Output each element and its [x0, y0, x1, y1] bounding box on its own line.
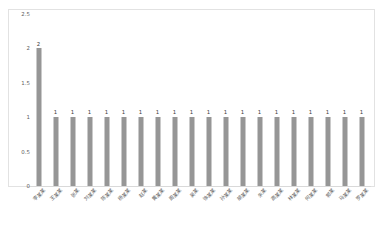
bar[interactable] — [70, 117, 75, 186]
bar[interactable] — [172, 117, 177, 186]
bar-value-label: 1 — [54, 110, 57, 115]
x-axis-tick-label: 孙某某 — [219, 188, 233, 202]
bar-chart: 2.521.510.50 21111111111111111111 李某某王某某… — [0, 0, 387, 237]
bar-value-label: 1 — [275, 110, 278, 115]
bar[interactable] — [138, 117, 143, 186]
bar-value-label: 1 — [71, 110, 74, 115]
bar[interactable] — [206, 117, 211, 186]
bar[interactable] — [87, 117, 92, 186]
x-axis-tick-label: 杨某某 — [117, 188, 131, 202]
bar-value-label: 1 — [88, 110, 91, 115]
x-axis-tick-label: 周某某 — [168, 188, 182, 202]
bar[interactable] — [325, 117, 330, 186]
bar-value-label: 1 — [309, 110, 312, 115]
bar-value-label: 1 — [241, 110, 244, 115]
x-axis-tick-label: 胡某某 — [236, 188, 250, 202]
x-axis-tick-label: 赵某 — [137, 188, 148, 199]
bar-value-label: 1 — [207, 110, 210, 115]
y-axis: 2.521.510.50 — [8, 9, 32, 187]
bar-slot: 1 — [81, 14, 98, 186]
x-axis-tick-label: 罗某某 — [355, 188, 369, 202]
bar-slot: 1 — [64, 14, 81, 186]
x-axis-tick-label: 张某 — [69, 188, 80, 199]
bar[interactable] — [308, 117, 313, 186]
bar-value-label: 1 — [326, 110, 329, 115]
y-axis-tick: 1.5 — [21, 80, 30, 86]
bar-slot: 1 — [149, 14, 166, 186]
x-axis-baseline — [30, 186, 371, 187]
x-axis-tick-label: 陈某某 — [100, 188, 114, 202]
bar[interactable] — [342, 117, 347, 186]
bar-value-label: 1 — [173, 110, 176, 115]
bar-slot: 1 — [166, 14, 183, 186]
bar-slot: 2 — [30, 14, 47, 186]
bar-value-label: 2 — [37, 42, 40, 47]
bar-value-label: 1 — [105, 110, 108, 115]
bar-slot: 1 — [336, 14, 353, 186]
bar[interactable] — [274, 117, 279, 186]
x-axis-tick-label: 林某某 — [287, 188, 301, 202]
bar-slot: 1 — [132, 14, 149, 186]
bar-slot: 1 — [268, 14, 285, 186]
bar[interactable] — [189, 117, 194, 186]
bar-slot: 1 — [115, 14, 132, 186]
y-axis-tick: 2.5 — [21, 11, 30, 17]
bar-slot: 1 — [353, 14, 370, 186]
x-axis-tick-label: 吴某 — [188, 188, 199, 199]
x-axis-tick-label: 徐某某 — [202, 188, 216, 202]
plot-area: 21111111111111111111 — [30, 14, 371, 186]
bar-value-label: 1 — [360, 110, 363, 115]
x-axis-tick-label: 王某某 — [49, 188, 63, 202]
bar-value-label: 1 — [122, 110, 125, 115]
bar[interactable] — [257, 117, 262, 186]
x-axis-tick-label: 高某某 — [270, 188, 284, 202]
bar-slot: 1 — [47, 14, 64, 186]
x-axis-tick-label: 李某某 — [32, 188, 46, 202]
bar-value-label: 1 — [139, 110, 142, 115]
bar-slot: 1 — [251, 14, 268, 186]
bar-slot: 1 — [285, 14, 302, 186]
bar[interactable] — [104, 117, 109, 186]
bar-slot: 1 — [234, 14, 251, 186]
bar[interactable] — [36, 48, 41, 186]
bar-slot: 1 — [98, 14, 115, 186]
x-axis-labels: 李某某王某某张某刘某某陈某某杨某某赵某黄某某周某某吴某徐某某孙某某胡某某朱某高某… — [30, 188, 371, 234]
bar-value-label: 1 — [224, 110, 227, 115]
bar-slot: 1 — [302, 14, 319, 186]
bar-slot: 1 — [319, 14, 336, 186]
x-axis-tick-label: 黄某某 — [151, 188, 165, 202]
bar[interactable] — [359, 117, 364, 186]
bar[interactable] — [240, 117, 245, 186]
x-axis-tick-label: 郭某 — [324, 188, 335, 199]
bar-value-label: 1 — [343, 110, 346, 115]
bar[interactable] — [155, 117, 160, 186]
x-axis-tick-label: 刘某某 — [83, 188, 97, 202]
bar[interactable] — [291, 117, 296, 186]
bar[interactable] — [121, 117, 126, 186]
x-axis-tick-label: 朱某 — [256, 188, 267, 199]
bar-value-label: 1 — [292, 110, 295, 115]
bar-slot: 1 — [217, 14, 234, 186]
bar-slot: 1 — [183, 14, 200, 186]
bar[interactable] — [223, 117, 228, 186]
y-axis-tick: 0.5 — [21, 149, 30, 155]
bar-value-label: 1 — [190, 110, 193, 115]
x-axis-tick-label: 何某某 — [304, 188, 318, 202]
bar-value-label: 1 — [156, 110, 159, 115]
bar-value-label: 1 — [258, 110, 261, 115]
bar[interactable] — [53, 117, 58, 186]
bar-slot: 1 — [200, 14, 217, 186]
x-axis-tick-label: 马某某 — [338, 188, 352, 202]
